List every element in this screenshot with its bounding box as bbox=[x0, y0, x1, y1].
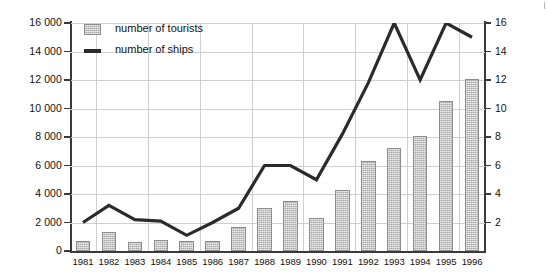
right-tick bbox=[484, 51, 491, 52]
right-axis-label: 2 bbox=[495, 216, 501, 228]
x-label-1996: 1996 bbox=[459, 256, 485, 267]
bar-swatch-icon bbox=[84, 24, 101, 35]
line-swatch-icon bbox=[84, 49, 101, 53]
right-tick bbox=[484, 136, 491, 137]
right-axis-label: 10 bbox=[495, 102, 507, 114]
x-label-1991: 1991 bbox=[329, 256, 355, 267]
left-axis-label: 12 000 bbox=[29, 73, 62, 85]
right-tick bbox=[484, 193, 491, 194]
x-label-1982: 1982 bbox=[96, 256, 122, 267]
x-label-1993: 1993 bbox=[381, 256, 407, 267]
top-right-tick-mark bbox=[544, 2, 545, 9]
left-axis-label: 14 000 bbox=[29, 45, 62, 57]
x-label-1986: 1986 bbox=[200, 256, 226, 267]
right-tick bbox=[484, 165, 491, 166]
left-axis-label: 6 000 bbox=[35, 159, 62, 171]
left-axis-label: 0 bbox=[56, 244, 62, 256]
x-label-1992: 1992 bbox=[355, 256, 381, 267]
right-axis-label: 8 bbox=[495, 130, 501, 142]
left-axis-label: 4 000 bbox=[35, 187, 62, 199]
right-axis-label: 14 bbox=[495, 45, 507, 57]
right-axis-label: 16 bbox=[495, 16, 507, 28]
right-axis-label: 6 bbox=[495, 159, 501, 171]
left-axis-label: 2 000 bbox=[35, 216, 62, 228]
right-tick bbox=[484, 222, 491, 223]
x-label-1989: 1989 bbox=[278, 256, 304, 267]
x-label-1995: 1995 bbox=[433, 256, 459, 267]
right-axis-label: 4 bbox=[495, 187, 501, 199]
x-label-1988: 1988 bbox=[252, 256, 278, 267]
bottom-axis-line bbox=[70, 251, 486, 253]
x-label-1983: 1983 bbox=[122, 256, 148, 267]
right-tick bbox=[484, 22, 491, 23]
right-tick bbox=[484, 79, 491, 80]
x-label-1994: 1994 bbox=[407, 256, 433, 267]
legend-label-ships: number of ships bbox=[115, 43, 193, 55]
x-label-1981: 1981 bbox=[70, 256, 96, 267]
x-label-1990: 1990 bbox=[303, 256, 329, 267]
scan-artifact-text bbox=[4, 0, 204, 7]
x-label-1985: 1985 bbox=[174, 256, 200, 267]
x-label-1987: 1987 bbox=[226, 256, 252, 267]
right-axis-label: 12 bbox=[495, 73, 507, 85]
left-axis-label: 10 000 bbox=[29, 102, 62, 114]
x-label-1984: 1984 bbox=[148, 256, 174, 267]
tourism-chart: 02 0004 0006 0008 00010 00012 00014 0001… bbox=[0, 0, 548, 273]
left-axis-label: 8 000 bbox=[35, 130, 62, 142]
legend-label-tourists: number of tourists bbox=[115, 22, 203, 34]
right-tick bbox=[484, 108, 491, 109]
left-axis-label: 16 000 bbox=[29, 16, 62, 28]
chart-legend: number of tourists number of ships bbox=[84, 22, 249, 62]
